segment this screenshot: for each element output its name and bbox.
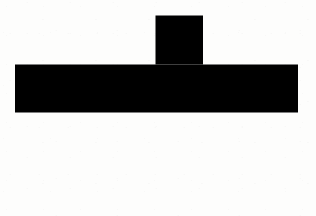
top-square-fill bbox=[156, 16, 204, 65]
square-fills-group bbox=[15, 16, 298, 113]
hexomino-net-figure bbox=[0, 0, 316, 216]
row-fill bbox=[15, 65, 298, 113]
